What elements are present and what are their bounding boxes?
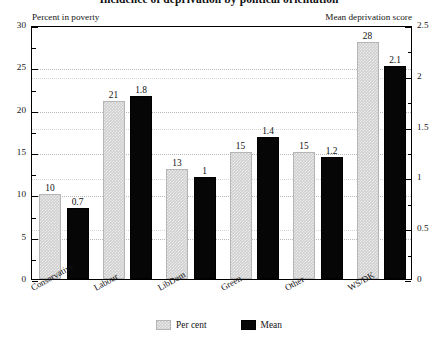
bar-mean	[257, 137, 279, 279]
bar-mean	[194, 177, 216, 279]
legend-swatch-mean	[241, 320, 256, 330]
right-tick-label: 1	[417, 172, 422, 182]
bar-mean	[384, 66, 406, 279]
right-tick-label: 2	[417, 71, 422, 81]
right-axis-caption: Mean deprivation score	[325, 12, 412, 22]
chart-legend: Per centMean	[0, 320, 438, 330]
legend-item[interactable]: Per cent	[156, 320, 206, 330]
bar-value-label: 15	[236, 141, 245, 151]
legend-item[interactable]: Mean	[241, 320, 282, 330]
left-tick-label: 20	[2, 105, 26, 115]
bar-per-cent	[230, 152, 252, 279]
bar-value-label: 15	[299, 141, 308, 151]
bars-group: 100.7211.8131151.4151.2282.1	[32, 27, 411, 279]
bar-value-label: 21	[109, 90, 118, 100]
bar-mean	[130, 96, 152, 279]
bar-per-cent	[166, 169, 188, 279]
bar-value-label: 1.8	[135, 85, 147, 95]
bar-per-cent	[103, 101, 125, 279]
legend-label: Per cent	[176, 320, 206, 330]
plot-area: 100.7211.8131151.4151.2282.1	[31, 26, 412, 280]
bar-value-label: 28	[363, 31, 372, 41]
right-tick-label: 0	[417, 274, 422, 284]
left-tick-label: 10	[2, 189, 26, 199]
chart-title: Incidence of deprivation by political or…	[0, 0, 438, 5]
bar-value-label: 2.1	[389, 55, 401, 65]
left-tick-label: 25	[2, 62, 26, 72]
bar-per-cent	[39, 194, 61, 279]
left-axis-caption: Percent in poverty	[32, 12, 99, 22]
left-tick-label: 15	[2, 147, 26, 157]
right-tick-label: 1.5	[417, 122, 428, 132]
bar-per-cent	[357, 42, 379, 279]
bar-value-label: 13	[172, 158, 181, 168]
left-tick-label: 30	[2, 20, 26, 30]
bar-value-label: 1	[202, 166, 207, 176]
legend-swatch-pct	[156, 320, 171, 330]
right-tick-label: 0.5	[417, 223, 428, 233]
chart-figure: Incidence of deprivation by political or…	[0, 0, 438, 337]
bar-value-label: 0.7	[72, 197, 84, 207]
left-tick-label: 5	[2, 232, 26, 242]
bar-value-label: 1.4	[262, 126, 274, 136]
left-tick-label: 0	[2, 274, 26, 284]
right-tick-label: 2.5	[417, 20, 428, 30]
legend-label: Mean	[261, 320, 282, 330]
bar-value-label: 1.2	[326, 146, 338, 156]
bar-per-cent	[293, 152, 315, 279]
bar-value-label: 10	[45, 183, 54, 193]
bar-mean	[321, 157, 343, 279]
